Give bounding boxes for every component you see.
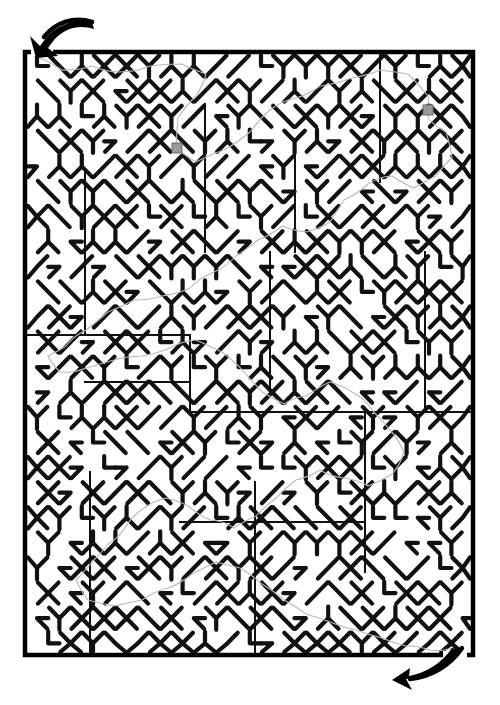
- maze-canvas[interactable]: [0, 0, 500, 705]
- maze-page: [0, 0, 500, 705]
- marker-square-2: [423, 105, 433, 115]
- marker-square-1: [172, 143, 182, 153]
